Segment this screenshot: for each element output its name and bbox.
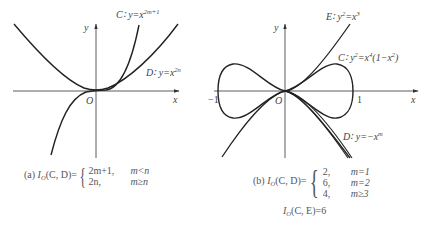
- panel-b-case-row: 2,m=1: [323, 166, 370, 177]
- panel-b-line2-rest: (C, E)=6: [291, 205, 326, 216]
- panel-a-case-row: 2m+1,m<n: [88, 165, 149, 176]
- panel-a-y-label: y: [83, 22, 89, 33]
- panel-a-plot: y x O C∶ y=x2m+1 D∶ y=x2n: [13, 8, 181, 158]
- panel-a-curve-d-label: D∶ y=x2n: [145, 66, 181, 78]
- panel-b-caption-line2: IO(C, E)=6: [283, 205, 326, 220]
- panel-b-cases: 2,m=1 6,m=2 4,m≥3: [323, 166, 370, 199]
- panel-a-lhs-args: (C, D)=: [46, 169, 77, 180]
- panel-b-tag: (b): [253, 175, 265, 186]
- case-value: 6,: [323, 177, 351, 188]
- panel-b-y-label: y: [273, 22, 279, 33]
- panel-a-origin-label: O: [86, 95, 93, 106]
- case-value: 2m+1,: [88, 165, 130, 176]
- panel-b-lhs-args: (C, D)=: [275, 175, 306, 186]
- panel-a-brace: {: [79, 164, 85, 188]
- panel-a-caption: (a) IO(C, D)={ 2m+1,m<n 2n,m≥n: [24, 164, 149, 188]
- panel-a-curve-c-label: C∶ y=x2m+1: [116, 8, 159, 20]
- case-value: 2,: [323, 166, 351, 177]
- panel-b-curve-d-1: [285, 91, 348, 158]
- panel-b-plot: y x O −1 1 E∶ y2=x3 C∶ y2=x4(1−x2) D∶ y=…: [208, 10, 418, 158]
- panel-b-case-row: 4,m≥3: [323, 188, 370, 199]
- panel-a-cases: 2m+1,m<n 2n,m≥n: [88, 165, 149, 187]
- case-value: 2n,: [88, 176, 130, 187]
- case-condition: m≥n: [130, 176, 148, 187]
- panel-b-curve-c-label: C∶ y2=x4(1−x2): [338, 51, 399, 64]
- panel-a-curve-c: [51, 25, 139, 155]
- panel-b-x-label: x: [410, 94, 416, 105]
- panel-b-curve-e-label: E∶ y2=x3: [325, 10, 360, 22]
- panel-b-brace: {: [310, 165, 319, 199]
- case-condition: m=2: [351, 177, 370, 188]
- panel-b-tick-neg-one: −1: [208, 94, 219, 105]
- panel-b-tick-one: 1: [357, 94, 362, 105]
- panel-b-case-row: 6,m=2: [323, 177, 370, 188]
- panel-a-tag: (a): [24, 169, 35, 180]
- case-condition: m<n: [130, 165, 149, 176]
- panel-b-origin-label: O: [275, 95, 282, 106]
- panel-b-caption: (b) IO(C, D)={ 2,m=1 6,m=2 4,m≥3: [253, 165, 370, 199]
- case-condition: m=1: [351, 166, 370, 177]
- case-condition: m≥3: [351, 188, 369, 199]
- panel-a-x-label: x: [172, 94, 178, 105]
- panel-a-case-row: 2n,m≥n: [88, 176, 149, 187]
- case-value: 4,: [323, 188, 351, 199]
- panel-b-curve-d-label: D∶ y=−xm: [342, 130, 383, 142]
